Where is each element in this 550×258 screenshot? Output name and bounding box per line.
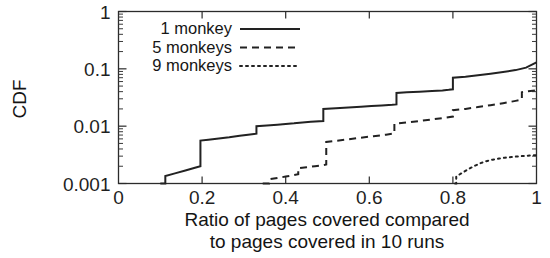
x-axis-ticks: [202, 12, 453, 184]
y-axis-tick-labels: 0.0010.010.11: [63, 2, 111, 195]
x-tick-label: 1: [531, 187, 542, 208]
legend-label-5-monkeys: 5 monkeys: [152, 38, 232, 56]
series-line-5-monkeys: [263, 90, 537, 183]
x-axis-title-line1: Ratio of pages covered compared: [184, 209, 469, 230]
x-tick-label: 0.4: [272, 187, 299, 208]
x-tick-label: 0.2: [189, 187, 215, 208]
x-axis-title-line2: to pages covered in 10 runs: [210, 231, 445, 252]
x-tick-label: 0: [113, 187, 124, 208]
legend-label-9-monkeys: 9 monkeys: [152, 56, 232, 74]
y-tick-label: 1: [100, 2, 111, 23]
chart-canvas: 00.20.40.60.81 0.0010.010.11 1 monkey5 m…: [0, 0, 550, 258]
series-line-1-monkey: [160, 62, 536, 183]
y-tick-label: 0.001: [63, 174, 111, 195]
data-series-group: [160, 62, 536, 183]
x-tick-label: 0.6: [356, 187, 382, 208]
x-tick-label: 0.8: [440, 187, 466, 208]
cdf-chart-figure: 00.20.40.60.81 0.0010.010.11 1 monkey5 m…: [0, 0, 550, 258]
y-axis-title: CDF: [9, 79, 30, 118]
y-tick-label: 0.01: [74, 116, 111, 137]
chart-legend: 1 monkey5 monkeys9 monkeys: [152, 19, 300, 74]
legend-label-1-monkey: 1 monkey: [160, 19, 232, 37]
series-line-9-monkeys: [455, 155, 537, 183]
y-tick-label: 0.1: [84, 59, 110, 80]
x-axis-tick-labels: 00.20.40.60.81: [113, 187, 542, 208]
